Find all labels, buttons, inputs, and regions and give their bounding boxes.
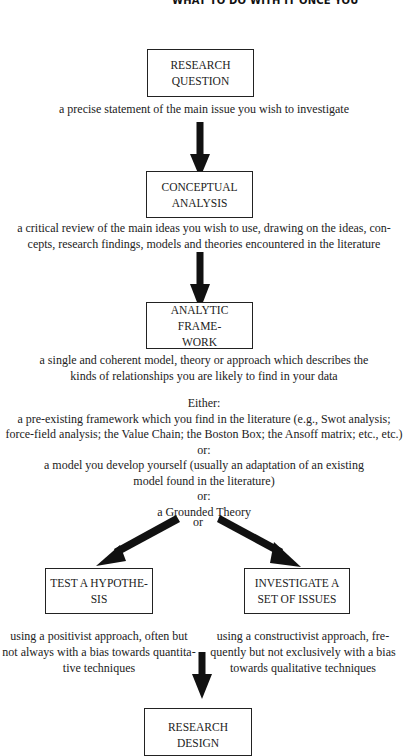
research-question-box: RESEARCH QUESTION (147, 49, 254, 97)
box-line: CONCEPTUAL (161, 179, 237, 195)
options-intro: Either: (0, 396, 408, 412)
analytic-framework-box: ANALYTIC FRAME- WORK (146, 302, 253, 349)
option-line: force-field analysis; the Value Chain; t… (0, 427, 408, 443)
test-hypothesis-caption: using a positivist approach, often but n… (0, 628, 198, 676)
box-line: WORK (151, 334, 248, 350)
caption-line: a single and coherent model, theory or a… (0, 352, 408, 368)
caption-line: using a constructivist approach, fre- (206, 628, 400, 644)
caption-line: a precise statement of the main issue yo… (0, 101, 408, 117)
caption-line: cepts, research findings, models and the… (0, 236, 408, 252)
conceptual-analysis-caption: a critical review of the main ideas you … (0, 220, 408, 252)
conceptual-analysis-box: CONCEPTUAL ANALYSIS (146, 171, 253, 218)
or-separator: or: (0, 489, 408, 505)
running-header: WHAT TO DO WITH IT ONCE YOU' (172, 0, 408, 6)
box-line: SET OF ISSUES (255, 591, 340, 607)
box-line: TEST A HYPOTHE- (50, 575, 148, 591)
box-line: ANALYSIS (161, 195, 237, 211)
box-line: ANALYTIC FRAME- (151, 302, 248, 334)
caption-line: towards qualitative techniques (206, 660, 400, 676)
branch-label: or (178, 514, 218, 530)
arrow-diagonal-left (96, 515, 180, 566)
box-line: QUESTION (170, 73, 230, 89)
test-hypothesis-box: TEST A HYPOTHE- SIS (45, 568, 153, 614)
research-question-caption: a precise statement of the main issue yo… (0, 101, 408, 117)
box-line: RESEARCH (168, 719, 228, 735)
option-line: a pre-existing framework which you find … (0, 412, 408, 428)
box-line: SIS (50, 591, 148, 607)
framework-options: Either: a pre-existing framework which y… (0, 396, 408, 520)
option-line: model found in the literature) (0, 474, 408, 490)
option-line: a model you develop yourself (usually an… (0, 458, 408, 474)
caption-line: quently but not exclusively with a bias (206, 644, 400, 660)
analytic-framework-caption: a single and coherent model, theory or a… (0, 352, 408, 384)
research-design-box: RESEARCH DESIGN (144, 708, 252, 756)
caption-line: a critical review of the main ideas you … (0, 220, 408, 236)
box-line: RESEARCH (170, 57, 230, 73)
arrow-down-1 (190, 122, 210, 178)
caption-line: kinds of relationships you are likely to… (0, 368, 408, 384)
or-separator: or: (0, 443, 408, 459)
caption-line: tive techniques (0, 660, 198, 676)
box-line: DESIGN (168, 735, 228, 751)
investigate-issues-caption: using a constructivist approach, fre- qu… (206, 628, 400, 676)
caption-line: not always with a bias towards quantita- (0, 644, 198, 660)
investigate-issues-box: INVESTIGATE A SET OF ISSUES (244, 568, 350, 614)
box-line: INVESTIGATE A (255, 575, 340, 591)
arrow-diagonal-right (217, 515, 301, 567)
caption-line: using a positivist approach, often but (0, 628, 198, 644)
